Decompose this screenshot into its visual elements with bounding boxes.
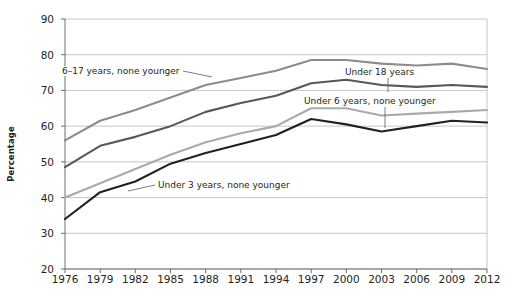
series-label-2: Under 6 years, none younger [302,96,438,106]
annotation-leader-3 [128,185,155,191]
series-label-3: Under 3 years, none younger [156,180,292,190]
series-label-1: Under 18 years [343,67,416,77]
series-line-1 [65,80,487,168]
series-label-0: 6–17 years, none younger [60,66,182,76]
series-line-3 [65,119,487,219]
annotation-leader-0 [183,71,212,77]
